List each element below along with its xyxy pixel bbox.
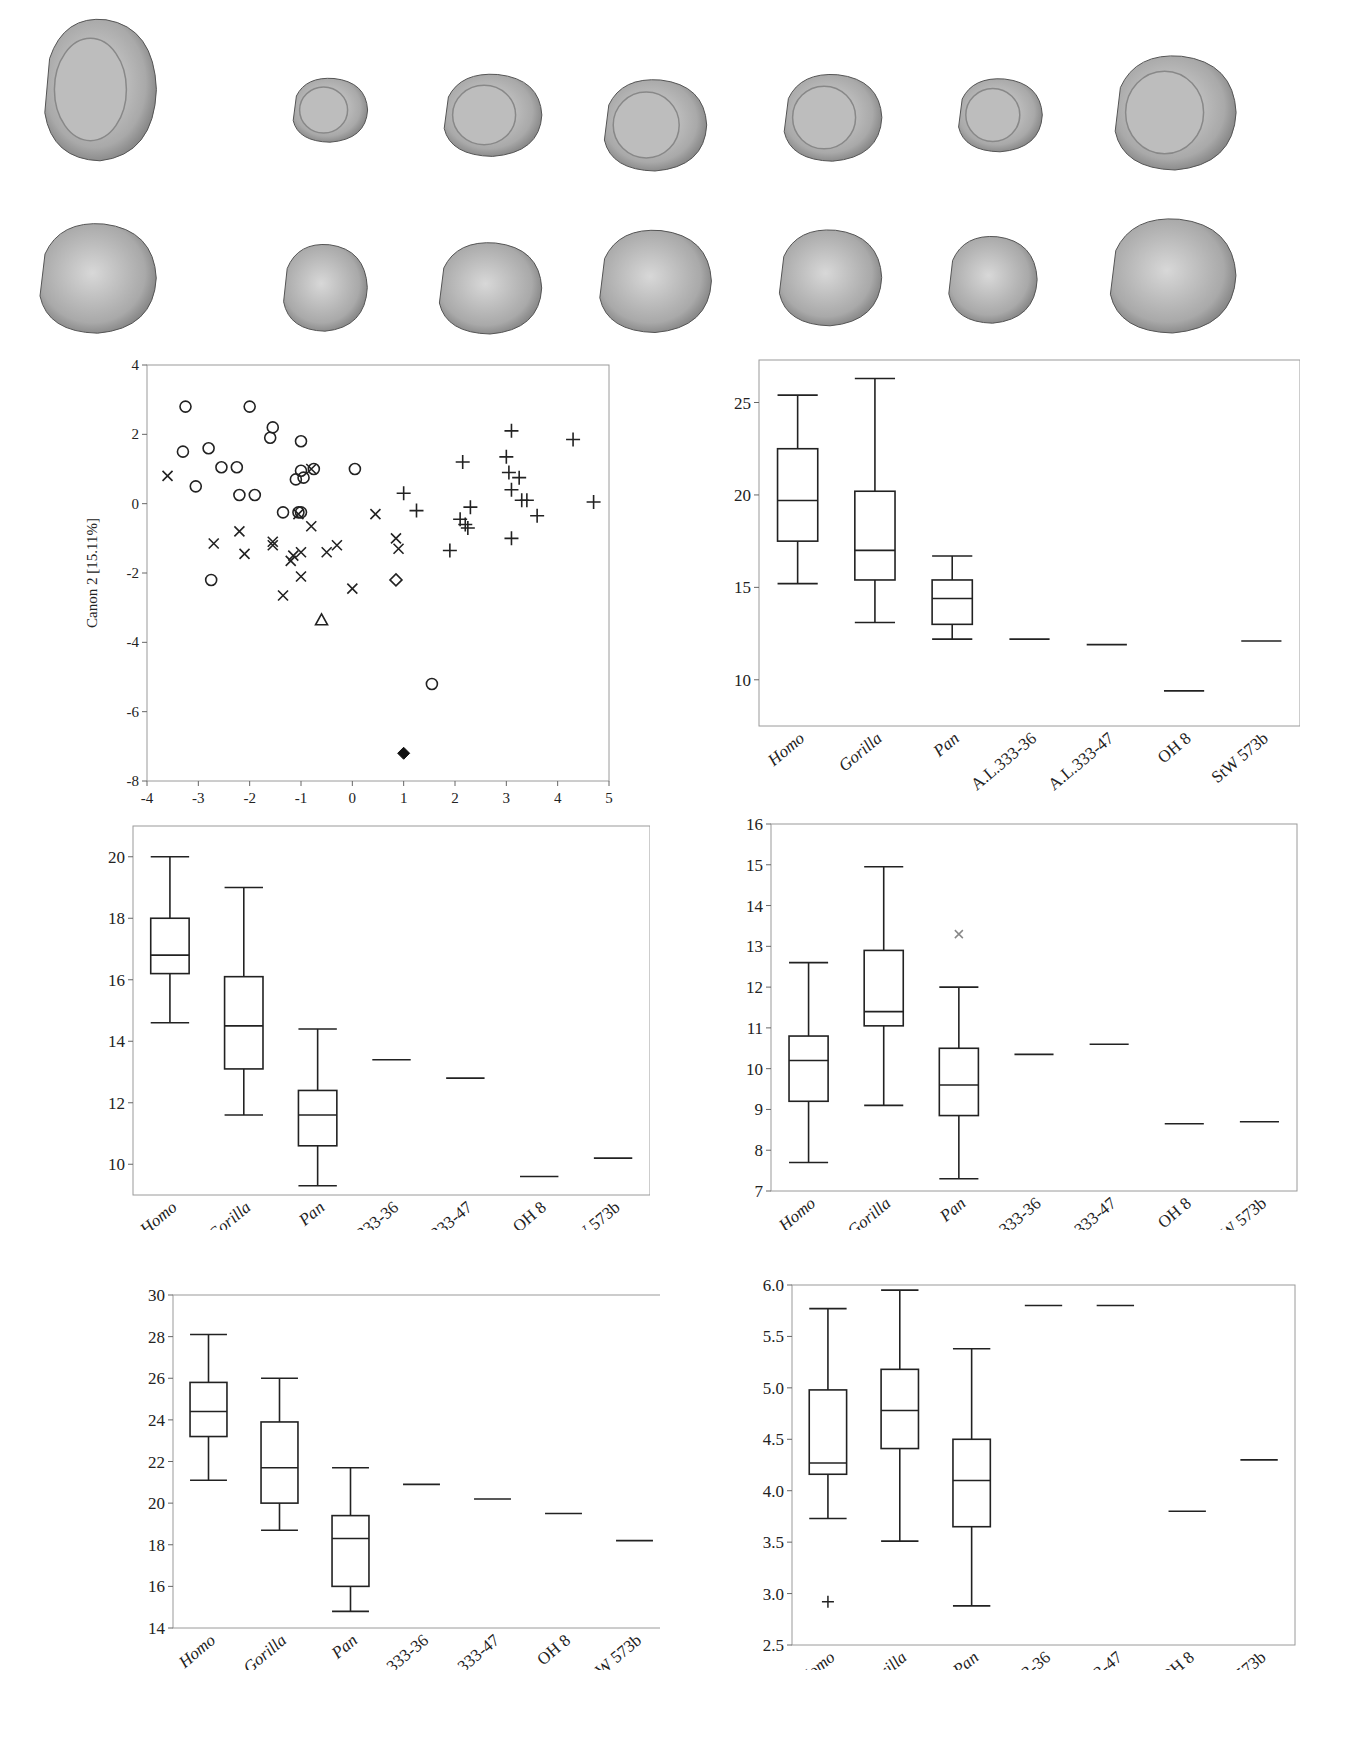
category-label: Homo [774,1194,819,1230]
data-point-x [240,549,250,559]
y-tick-label: 13 [746,937,763,956]
category-label: A.L.333-47 [1053,1647,1126,1670]
data-point-x [322,547,332,557]
y-tick-label: 5.0 [763,1379,784,1398]
category-label: StW 573b [581,1631,645,1670]
y-tick-label: 28 [148,1328,165,1347]
y-tick-label: 16 [746,815,763,834]
y-tick-label: 20 [148,1494,165,1513]
category-label: A.L.333-47 [403,1197,476,1230]
y-tick-label: 26 [148,1369,165,1388]
y-axis-label: Canon 2 [15.11%] [84,518,100,628]
category-label: A.L.333-36 [972,1194,1045,1230]
data-point-x [209,539,219,549]
category-label: OH 8 [1157,1648,1198,1670]
bone-image-lateral-5 [775,225,885,330]
y-tick-label: 18 [108,909,125,928]
data-point-circle [293,507,304,518]
box-whisker [789,963,828,1163]
data-point-plus [397,486,411,500]
y-tick-label: 11 [747,1019,763,1038]
category-label: Gorilla [240,1631,291,1670]
x-tick-label: -1 [295,790,308,805]
data-point-plus [463,500,477,514]
category-label: Homo [763,729,808,771]
data-point-circle [426,678,437,689]
y-tick-label: 10 [108,1155,125,1174]
y-tick-label: 14 [746,897,764,916]
y-tick-label: 12 [746,978,763,997]
data-point-circle [290,474,301,485]
data-point-plus [499,450,513,464]
box-whisker [932,556,972,639]
boxplot-1: 10152025HomoGorillaPanA.L.333-36A.L.333-… [680,355,1300,825]
category-label: Homo [794,1648,839,1670]
category-label: Gorilla [860,1648,911,1670]
bone-images-lateral-row [0,0,1347,350]
y-tick-label: -4 [127,634,140,650]
data-point-x [332,540,342,550]
data-point-plus [504,483,518,497]
bone-image-lateral-2 [280,240,370,335]
y-tick-label: 15 [746,856,763,875]
category-label: Homo [174,1631,219,1670]
bone-image-lateral-1 [35,218,160,338]
data-point-plus [530,509,544,523]
data-point-circle [203,443,214,454]
y-tick-label: 14 [108,1032,126,1051]
data-point-x [347,584,357,594]
y-tick-label: 8 [755,1141,764,1160]
data-point-plus [443,543,457,557]
category-label: StW 573b [559,1198,623,1230]
category-label: OH 8 [1154,1194,1195,1230]
data-point-x [163,471,173,481]
category-label: Pan [294,1198,328,1230]
bone-image-lateral-4 [595,225,715,337]
boxplot-4: 141618202224262830HomoGorillaPanA.L.333-… [60,1230,660,1670]
y-tick-label: 4 [132,357,140,373]
category-label: A.L.333-36 [359,1631,432,1670]
category-label: A.L.333-36 [967,729,1040,795]
category-label: Pan [929,729,963,762]
box-whisker [778,395,818,584]
bone-image-lateral-7 [1105,213,1240,338]
data-point-circle [265,432,276,443]
data-point-circle [234,490,245,501]
data-point-circle [180,401,191,412]
data-point-circle [177,446,188,457]
y-tick-label: 20 [108,848,125,867]
data-point-plus [587,495,601,509]
data-point-plus [410,504,424,518]
category-label: Homo [136,1198,181,1230]
y-tick-label: 25 [734,394,751,413]
data-point-circle [308,464,319,475]
y-tick-label: -8 [127,773,140,789]
y-tick-label: 14 [148,1619,166,1638]
category-label: Pan [935,1194,969,1227]
category-label: A.L.333-36 [329,1198,402,1230]
y-tick-label: 22 [148,1453,165,1472]
y-tick-label: 15 [734,578,751,597]
data-point-circle [296,436,307,447]
data-point-x [278,591,288,601]
data-point-x [234,526,244,536]
y-tick-label: 24 [148,1411,166,1430]
y-tick-label: 20 [734,486,751,505]
data-point-plus [456,455,470,469]
x-tick-label: 3 [503,790,511,805]
box-whisker [855,378,895,622]
y-tick-label: 16 [108,971,125,990]
box-whisker [332,1468,369,1612]
x-tick-label: -4 [141,790,154,805]
box-whisker [864,867,903,1106]
y-tick-label: -2 [127,565,140,581]
y-tick-label: 16 [148,1577,165,1596]
data-point-circle [231,462,242,473]
data-point-x [391,533,401,543]
y-tick-label: 4.0 [763,1482,784,1501]
data-point-circle [216,462,227,473]
data-point-x [394,544,404,554]
bone-image-lateral-3 [435,238,545,338]
boxplot-3: 78910111213141516HomoGorillaPanA.L.333-3… [660,810,1310,1230]
y-tick-label: 5.5 [763,1327,784,1346]
